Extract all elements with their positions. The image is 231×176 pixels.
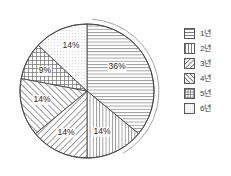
legend-label-4: 4년 [200,73,211,84]
legend-item-4[interactable]: 4년 [184,71,230,86]
legend-label-3: 3년 [200,58,211,69]
legend-item-1[interactable]: 1년 [184,26,230,41]
legend-swatch-horizontal-lines-icon [184,28,195,39]
pie-slice-label-2: 14% [93,126,110,136]
pie-chart-figure: 36%14%14%14%9%14% 1년 2년 3년 4년 5년 6년 [0,0,231,176]
chart-legend: 1년 2년 3년 4년 5년 6년 [184,26,230,116]
legend-item-5[interactable]: 5년 [184,86,230,101]
legend-label-5: 5년 [200,88,211,99]
legend-swatch-crosshatch-icon [184,88,195,99]
legend-swatch-diagonal-back-icon [184,73,195,84]
pie-slice-label-5: 9% [39,65,52,75]
pie-slice-label-4: 14% [33,94,50,104]
pie-slice-label-6: 14% [62,40,79,50]
pie-slice-label-1: 36% [108,61,125,71]
legend-swatch-fine-dots-icon [184,103,195,114]
legend-label-2: 2년 [200,43,211,54]
legend-swatch-diagonal-forward-icon [184,58,195,69]
legend-item-6[interactable]: 6년 [184,101,230,116]
legend-label-1: 1년 [200,28,211,39]
legend-item-2[interactable]: 2년 [184,41,230,56]
legend-item-3[interactable]: 3년 [184,56,230,71]
pie-slice-label-3: 14% [57,127,74,137]
legend-swatch-vertical-lines-icon [184,43,195,54]
pie-slices [20,24,154,158]
legend-label-6: 6년 [200,103,211,114]
